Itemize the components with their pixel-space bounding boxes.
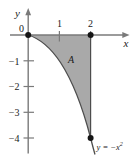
x-axis-label: x (123, 37, 129, 49)
y-axis-arrowhead (25, 8, 31, 15)
curve-equation-exponent: 2 (120, 141, 123, 147)
figure-container: y x 0 1 2 −1 −2 −3 −4 A y = −x2 (0, 0, 137, 158)
region-label-A: A (67, 54, 75, 65)
point-x2-y0 (88, 32, 94, 38)
point-origin (25, 32, 31, 38)
origin-label: 0 (19, 23, 24, 34)
curve-equation-base: y = −x (96, 142, 120, 152)
curve-equation-label: y = −x2 (96, 141, 123, 151)
y-axis-label: y (14, 7, 20, 19)
y-tick-label-minus1: −1 (9, 56, 20, 67)
y-tick-label-minus3: −3 (9, 107, 20, 118)
x-tick-label-1: 1 (57, 18, 62, 29)
y-tick-label-minus2: −2 (9, 81, 20, 92)
x-tick-label-2: 2 (88, 18, 93, 29)
y-tick-label-minus4: −4 (9, 133, 20, 144)
point-x2-ymin4 (88, 135, 94, 141)
parabola-area-chart: y x 0 1 2 −1 −2 −3 −4 A y = −x2 (0, 0, 137, 158)
shaded-region-A (28, 35, 90, 138)
